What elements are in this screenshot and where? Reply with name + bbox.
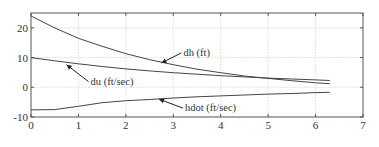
annotation-label: dh (ft) bbox=[183, 47, 210, 59]
series-layer bbox=[31, 16, 330, 110]
y-tick-label: 0 bbox=[23, 81, 29, 93]
annotation-label: du (ft/sec) bbox=[91, 76, 134, 88]
annotation-du: du (ft/sec) bbox=[67, 65, 134, 88]
x-tick-label: 4 bbox=[218, 119, 224, 131]
x-tick-label: 7 bbox=[360, 119, 366, 131]
x-tick-label: 0 bbox=[28, 119, 34, 131]
annotation-dh: dh (ft) bbox=[161, 47, 210, 63]
series-line-du bbox=[31, 58, 330, 81]
x-tick-label: 2 bbox=[123, 119, 129, 131]
x-tick-label: 6 bbox=[313, 119, 319, 131]
arrowhead-icon bbox=[67, 65, 72, 70]
y-tick-label: 20 bbox=[17, 22, 29, 34]
x-tick-label: 3 bbox=[171, 119, 177, 131]
x-tick-label: 1 bbox=[76, 119, 82, 131]
annotation-label: hdot (ft/sec) bbox=[185, 102, 237, 114]
y-tick-label: 10 bbox=[17, 52, 29, 64]
line-chart: dh (ft)du (ft/sec)hdot (ft/sec) 01234567… bbox=[0, 0, 379, 147]
y-tick-label: -10 bbox=[13, 111, 28, 123]
x-tick-label: 5 bbox=[265, 119, 271, 131]
annotation-hdot: hdot (ft/sec) bbox=[159, 99, 237, 115]
tick-labels: 01234567-1001020 bbox=[13, 13, 366, 131]
